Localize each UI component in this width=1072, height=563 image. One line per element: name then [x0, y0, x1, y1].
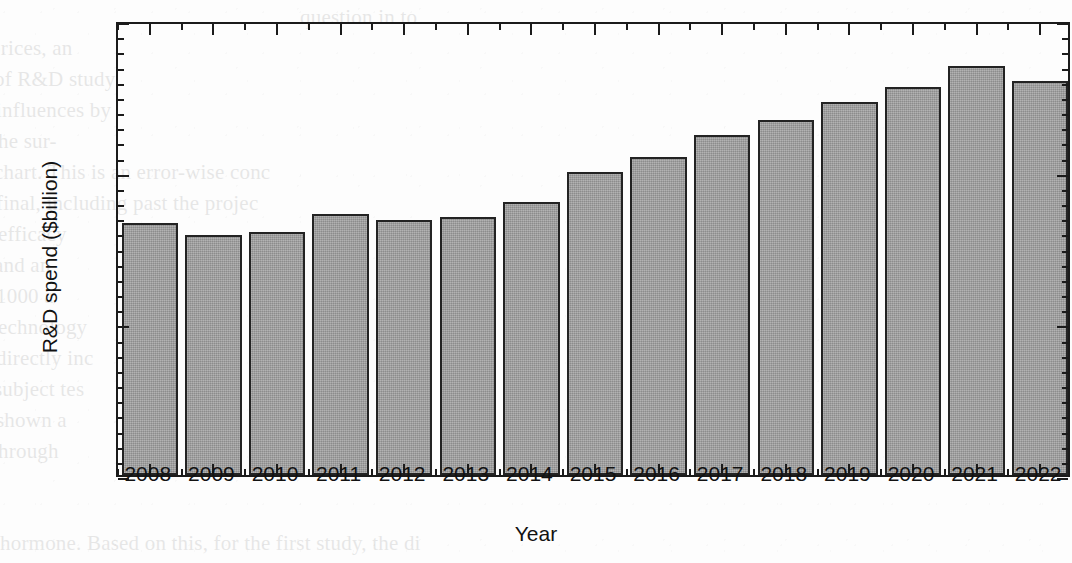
- x-major-tick-2008-top: [149, 24, 151, 35]
- y-minor-tick-175-right: [1062, 99, 1068, 101]
- bar-2020: [885, 87, 942, 475]
- bar-2009: [185, 235, 242, 475]
- plot-area: 50100150200: [116, 22, 1070, 477]
- bar-2018: [758, 120, 815, 475]
- x-major-tick-2022-top: [1039, 24, 1041, 35]
- y-minor-tick-130-right: [1062, 235, 1068, 237]
- y-minor-tick-140: [118, 205, 124, 207]
- y-minor-tick-170-right: [1062, 114, 1068, 116]
- y-minor-tick-75: [118, 402, 124, 404]
- x-major-tick-2010-top: [276, 24, 278, 35]
- bar-2011: [312, 214, 369, 475]
- y-minor-tick-60: [118, 448, 124, 450]
- x-major-tick-2015-top: [594, 24, 596, 35]
- y-minor-tick-120: [118, 266, 124, 268]
- x-tick-label-2010: 2010: [243, 462, 307, 486]
- y-minor-tick-65-right: [1062, 433, 1068, 435]
- bar-2016: [630, 157, 687, 476]
- bar-2012: [376, 220, 433, 475]
- x-tick-label-2011: 2011: [307, 462, 371, 486]
- y-minor-tick-135: [118, 220, 124, 222]
- x-tick-label-2018: 2018: [752, 462, 816, 486]
- x-minor-tick-edge-6-top: [499, 24, 501, 30]
- y-minor-tick-115: [118, 281, 124, 283]
- x-tick-label-2008: 2008: [116, 462, 180, 486]
- x-minor-tick-edge-9-top: [689, 24, 691, 30]
- y-minor-tick-115-right: [1062, 281, 1068, 283]
- x-minor-tick-edge-3-top: [308, 24, 310, 30]
- x-major-tick-2011-top: [340, 24, 342, 35]
- x-minor-tick-edge-10-top: [753, 24, 755, 30]
- y-minor-tick-125-right: [1062, 251, 1068, 253]
- x-minor-tick-edge-0-top: [117, 24, 119, 30]
- y-minor-tick-145-right: [1062, 190, 1068, 192]
- x-tick-label-2021: 2021: [943, 462, 1007, 486]
- bar-chart-figure: R&D spend ($billion) Year 50100150200 20…: [0, 0, 1072, 563]
- y-major-tick-150-right: [1057, 175, 1068, 177]
- x-tick-label-2020: 2020: [879, 462, 943, 486]
- x-major-tick-2013-top: [467, 24, 469, 35]
- bar-2013: [440, 217, 497, 475]
- y-minor-tick-145: [118, 190, 124, 192]
- x-minor-tick-edge-11-top: [817, 24, 819, 30]
- x-minor-tick-edge-5-top: [435, 24, 437, 30]
- x-major-tick-2020-top: [912, 24, 914, 35]
- y-axis-title: R&D spend ($billion): [38, 127, 62, 387]
- y-minor-tick-195: [118, 38, 124, 40]
- bar-2017: [694, 135, 751, 475]
- y-minor-tick-130: [118, 235, 124, 237]
- y-minor-tick-65: [118, 433, 124, 435]
- x-minor-tick-edge-13-top: [944, 24, 946, 30]
- y-minor-tick-110-right: [1062, 296, 1068, 298]
- y-minor-tick-175: [118, 99, 124, 101]
- y-minor-tick-160: [118, 144, 124, 146]
- x-tick-label-2017: 2017: [688, 462, 752, 486]
- y-major-tick-150: [118, 175, 129, 177]
- x-major-tick-2014-top: [530, 24, 532, 35]
- y-minor-tick-180-right: [1062, 84, 1068, 86]
- y-minor-tick-190: [118, 53, 124, 55]
- x-major-tick-2009-top: [212, 24, 214, 35]
- x-major-tick-2016-top: [658, 24, 660, 35]
- x-tick-label-2015: 2015: [561, 462, 625, 486]
- x-major-tick-2019-top: [848, 24, 850, 35]
- x-minor-tick-edge-12-top: [880, 24, 882, 30]
- bar-2008: [122, 223, 179, 475]
- y-minor-tick-165-right: [1062, 129, 1068, 131]
- y-minor-tick-95-right: [1062, 342, 1068, 344]
- x-tick-label-2022: 2022: [1006, 462, 1070, 486]
- bar-2022: [1012, 81, 1069, 475]
- x-tick-label-2016: 2016: [625, 462, 689, 486]
- y-minor-tick-185-right: [1062, 69, 1068, 71]
- y-minor-tick-70: [118, 417, 124, 419]
- y-minor-tick-170: [118, 114, 124, 116]
- y-minor-tick-90-right: [1062, 357, 1068, 359]
- y-minor-tick-80-right: [1062, 387, 1068, 389]
- bar-2019: [821, 102, 878, 475]
- y-minor-tick-155: [118, 160, 124, 162]
- x-tick-label-2019: 2019: [816, 462, 880, 486]
- bar-2015: [567, 172, 624, 475]
- y-minor-tick-70-right: [1062, 417, 1068, 419]
- y-major-tick-200-right: [1057, 23, 1068, 25]
- x-minor-tick-edge-7-top: [562, 24, 564, 30]
- x-minor-tick-edge-4-top: [371, 24, 373, 30]
- y-minor-tick-105-right: [1062, 311, 1068, 313]
- y-minor-tick-85: [118, 372, 124, 374]
- x-major-tick-2017-top: [721, 24, 723, 35]
- y-minor-tick-135-right: [1062, 220, 1068, 222]
- y-minor-tick-95: [118, 342, 124, 344]
- y-minor-tick-85-right: [1062, 372, 1068, 374]
- y-major-tick-100-right: [1057, 326, 1068, 328]
- y-minor-tick-120-right: [1062, 266, 1068, 268]
- y-minor-tick-105: [118, 311, 124, 313]
- x-tick-label-2009: 2009: [180, 462, 244, 486]
- y-minor-tick-80: [118, 387, 124, 389]
- y-minor-tick-180: [118, 84, 124, 86]
- x-minor-tick-edge-1-top: [181, 24, 183, 30]
- bar-2010: [249, 232, 306, 475]
- y-minor-tick-75-right: [1062, 402, 1068, 404]
- x-minor-tick-edge-8-top: [626, 24, 628, 30]
- y-minor-tick-90: [118, 357, 124, 359]
- bar-2021: [948, 66, 1005, 476]
